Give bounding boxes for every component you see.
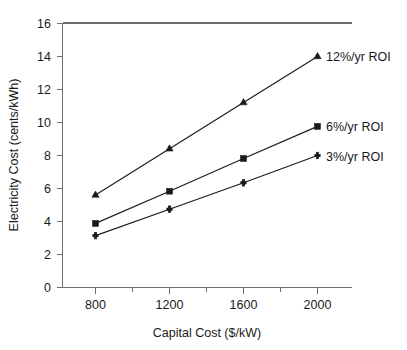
- chart-container: 0 2 4 6 8 10 12 14 16 800 1200: [0, 0, 407, 350]
- line-chart: 0 2 4 6 8 10 12 14 16 800 1200: [0, 0, 407, 350]
- marker-square-800: [93, 221, 99, 227]
- y-tick-label-0: 0: [44, 281, 51, 295]
- y-tick-label-8: 8: [44, 149, 51, 163]
- x-tick-label-1200: 1200: [156, 298, 184, 312]
- y-tick-label-12: 12: [37, 83, 51, 97]
- x-tick-label-1600: 1600: [230, 298, 258, 312]
- x-axis-title: Capital Cost ($/kW): [153, 326, 261, 340]
- legend-label-3-pct-roi: 3%/yr ROI: [326, 150, 384, 164]
- y-tick-label-14: 14: [37, 50, 51, 64]
- legend-label-6-pct-roi: 6%/yr ROI: [326, 120, 384, 134]
- y-tick-label-10: 10: [37, 116, 51, 130]
- x-tick-label-800: 800: [85, 298, 106, 312]
- y-tick-label-6: 6: [44, 182, 51, 196]
- marker-square-1600: [241, 156, 247, 162]
- marker-square-1200: [167, 188, 173, 194]
- legend-label-12-pct-roi: 12%/yr ROI: [326, 50, 391, 64]
- y-tick-label-16: 16: [37, 17, 51, 31]
- marker-square-2000: [315, 124, 321, 130]
- y-tick-label-2: 2: [44, 248, 51, 262]
- x-tick-label-2000: 2000: [304, 298, 332, 312]
- y-axis-title: Electricity Cost (cents/kWh): [7, 79, 21, 232]
- y-tick-label-4: 4: [44, 215, 51, 229]
